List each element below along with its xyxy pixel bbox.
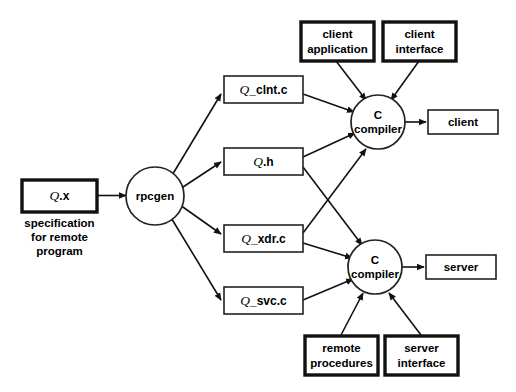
edge-client-interface-to-c-compiler-top [391,61,419,100]
file-h-label: Q.h [253,154,273,169]
node-client-application[interactable]: client application [301,22,374,61]
edge-h-to-c-compiler-bottom [303,167,362,245]
edge-xdr-to-c-compiler-top [303,149,366,233]
client-application-label-line-1: client [322,28,352,40]
spec-caption-line-2: for remote [31,231,88,243]
c-compiler-top-label-line-2: compiler [354,123,402,135]
file-clnt-label: Q_clnt.c [240,82,288,97]
node-client-interface[interactable]: client interface [383,22,456,61]
node-file-h[interactable]: Q.h [224,148,303,175]
c-compiler-bottom-label-line-1: C [371,254,379,266]
remote-procedures-label-line-1: remote [322,342,360,354]
node-file-xdr[interactable]: Q_xdr.c [224,225,303,252]
edge-rpcgen-to-xdr [180,205,221,234]
edge-rpcgen-to-clnt [171,94,221,177]
edge-server-interface-to-c-compiler-bottom [389,293,421,335]
client-interface-label-line-1: client [404,28,434,40]
node-output-client[interactable]: client [428,110,498,134]
node-server-interface[interactable]: server interface [385,336,458,375]
c-compiler-bottom-circle [348,240,402,294]
node-rpcgen[interactable]: rpcgen [126,167,184,225]
node-spec-box[interactable]: Q.x [22,180,97,212]
node-file-svc[interactable]: Q_svc.c [224,287,303,314]
diagram-canvas: Q.x specification for remote program rpc… [0,0,516,392]
edge-remote-procedures-to-c-compiler-bottom [341,293,363,335]
node-output-server[interactable]: server [426,255,496,279]
spec-caption-line-3: program [36,245,83,257]
edge-xdr-to-c-compiler-bottom [303,243,352,258]
server-interface-label-line-1: server [404,342,439,354]
rpcgen-diagram: Q.x specification for remote program rpc… [0,0,516,392]
edge-svc-to-c-compiler-bottom [303,279,353,300]
node-c-compiler-bottom[interactable]: C compiler [348,240,402,294]
node-remote-procedures[interactable]: remote procedures [305,336,378,375]
remote-procedures-label-line-2: procedures [310,357,373,369]
edge-h-to-c-compiler-top [303,133,355,157]
c-compiler-top-label-line-1: C [374,109,382,121]
edge-clnt-to-c-compiler-top [303,94,354,112]
file-xdr-label: Q_xdr.c [241,231,286,246]
spec-box-label: Q.x [50,188,70,203]
node-c-compiler-top[interactable]: C compiler [351,95,405,149]
edge-rpcgen-to-h [180,162,221,189]
spec-caption-line-1: specification [24,217,94,229]
c-compiler-bottom-label-line-2: compiler [351,268,399,280]
server-interface-label-line-2: interface [398,357,446,369]
client-interface-label-line-2: interface [396,43,444,55]
output-server-label: server [444,261,479,273]
c-compiler-top-circle [351,95,405,149]
node-file-clnt[interactable]: Q_clnt.c [224,76,303,103]
client-application-label-line-2: application [307,43,368,55]
spec-caption: specification for remote program [24,217,94,257]
file-svc-label: Q_svc.c [240,293,287,308]
output-client-label: client [448,116,478,128]
rpcgen-label: rpcgen [136,190,174,202]
edge-client-application-to-c-compiler-top [336,61,366,100]
